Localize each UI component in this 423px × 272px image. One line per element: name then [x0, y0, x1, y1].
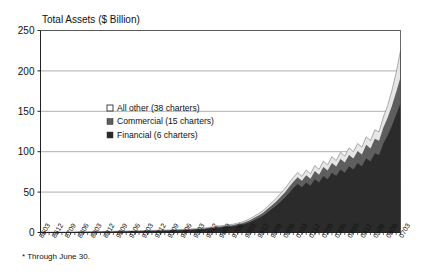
y-tick-label: 150 [18, 106, 35, 117]
open-square-marker [107, 105, 113, 111]
x-tick-label: 8612 [50, 222, 64, 239]
filled-square-marker [107, 119, 113, 125]
legend-label: Financial (6 charters) [117, 130, 198, 140]
x-tick-label: 8912 [102, 222, 116, 239]
chart-footnote: * Through June 30. [22, 252, 90, 262]
chart-plot-area: 050100150200250 860386128709880689038912… [0, 0, 423, 272]
y-tick-label: 50 [23, 187, 35, 198]
x-tick-label: 8709 [63, 222, 77, 239]
chart-legend: All other (38 charters)Commercial (15 ch… [107, 103, 214, 140]
legend-label: Commercial (15 charters) [117, 116, 214, 126]
y-tick-label: 100 [18, 146, 35, 157]
stacked-area-series-group [41, 51, 401, 233]
y-axis-group: 050100150200250 [18, 25, 41, 238]
y-tick-label: 0 [29, 227, 35, 238]
x-tick-label: 8903 [89, 222, 103, 239]
y-tick-label: 200 [18, 66, 35, 77]
x-axis-group: 8603861287098806890389129009910692039212… [38, 222, 412, 239]
chart-container: Total Assets ($ Billion) 050100150200250… [0, 0, 423, 272]
legend-label: All other (38 charters) [117, 103, 200, 113]
x-tick-label: 8603 [38, 222, 52, 239]
filled-square-marker [107, 132, 113, 138]
y-tick-label: 250 [18, 25, 35, 36]
x-tick-label: 9009 [115, 222, 129, 239]
x-tick-label: 8806 [76, 222, 90, 239]
